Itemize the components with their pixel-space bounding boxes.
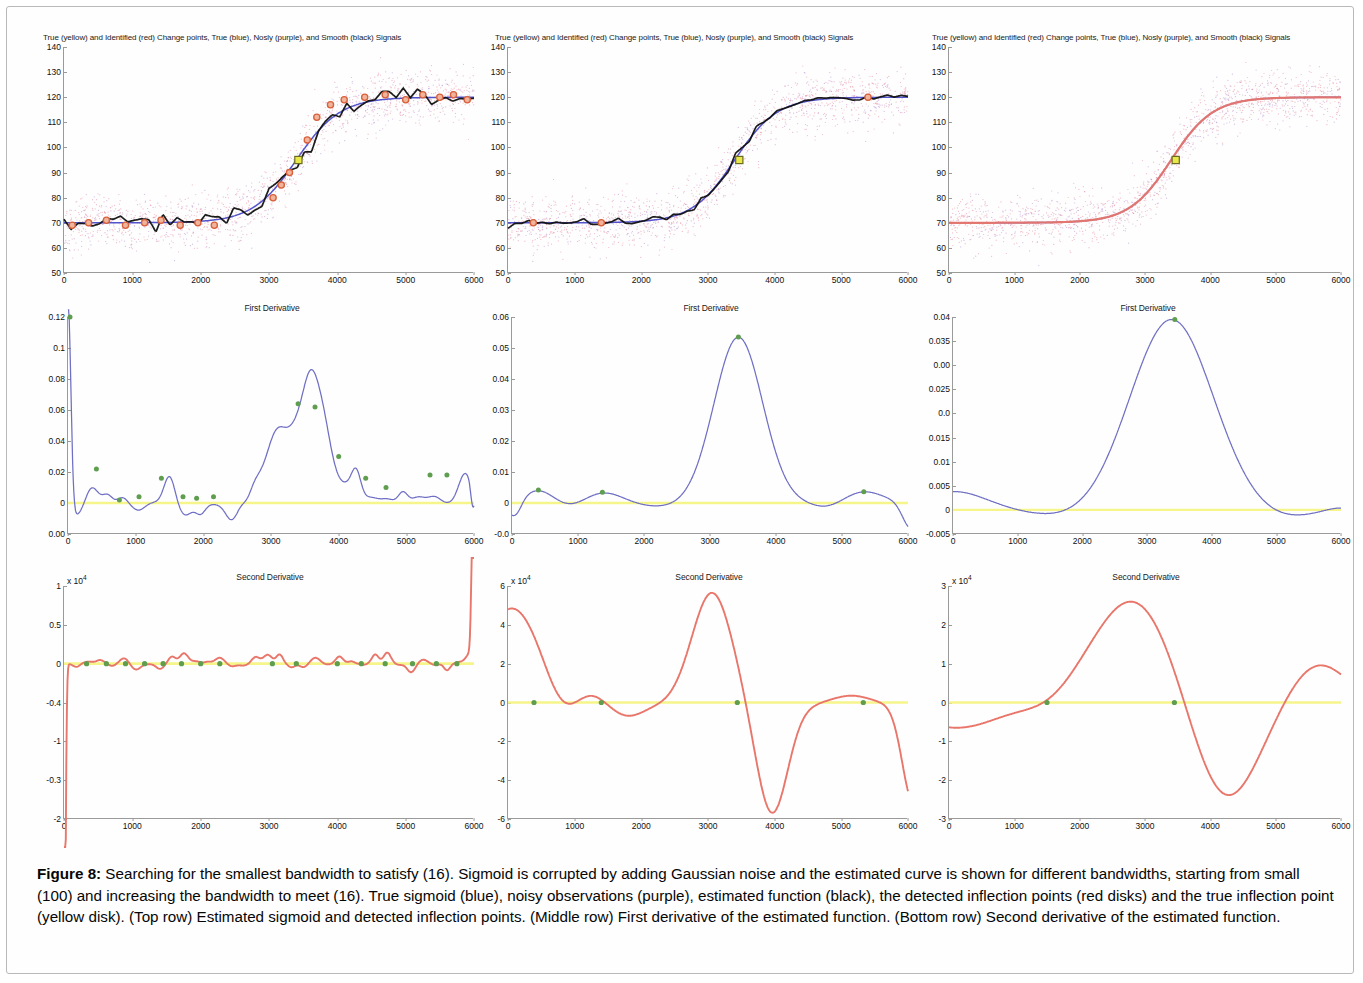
x-tick-label: 1000 bbox=[1005, 818, 1024, 831]
figure-caption-text: Searching for the smallest bandwidth to … bbox=[37, 865, 1334, 925]
figure-caption-label: Figure 8: bbox=[37, 865, 101, 882]
figure-frame: True (yellow) and Identified (red) Chang… bbox=[6, 6, 1354, 974]
y-tick-label: 1 bbox=[941, 659, 949, 669]
panel-title-bottom-right: Second Derivative bbox=[948, 572, 1344, 582]
zero-crossing-marker bbox=[1172, 700, 1177, 705]
second-derivative-curve bbox=[949, 602, 1341, 795]
y-tick-label: 2 bbox=[941, 620, 949, 630]
axes-bottom-right: 3210-1-2-30100020003000400050006000 bbox=[948, 586, 1340, 819]
plot-panel-bottom-right: Second Derivativex 1043210-1-2-301000200… bbox=[15, 21, 1347, 831]
plot-grid: True (yellow) and Identified (red) Chang… bbox=[15, 21, 1347, 831]
x-tick-label: 3000 bbox=[1136, 818, 1155, 831]
zero-crossing-marker bbox=[1044, 700, 1049, 705]
x-tick-label: 2000 bbox=[1070, 818, 1089, 831]
y-tick-label: 3 bbox=[941, 581, 949, 591]
y-tick-label: 0 bbox=[941, 698, 949, 708]
axis-multiplier-bottom-right: x 104 bbox=[952, 574, 972, 586]
x-tick-label: 5000 bbox=[1266, 818, 1285, 831]
figure-caption: Figure 8: Searching for the smallest ban… bbox=[37, 863, 1337, 928]
x-tick-label: 0 bbox=[947, 818, 952, 831]
x-tick-label: 6000 bbox=[1332, 818, 1351, 831]
y-tick-label: -1 bbox=[938, 736, 949, 746]
y-tick-label: -2 bbox=[938, 775, 949, 785]
x-tick-label: 4000 bbox=[1201, 818, 1220, 831]
